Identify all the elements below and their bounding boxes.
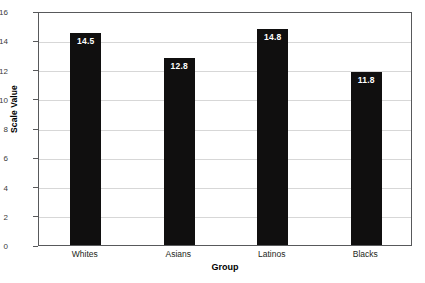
y-axis-tick-label: 8 — [0, 125, 8, 134]
y-axis-tick-mark — [33, 99, 38, 100]
bar: 14.5 — [70, 33, 101, 245]
y-axis-tick-mark — [33, 158, 38, 159]
y-axis-tick-label: 16 — [0, 8, 8, 17]
bar-value-label: 11.8 — [351, 75, 382, 85]
y-axis-tick-label: 6 — [0, 154, 8, 163]
x-axis-tick-label: Whites — [72, 249, 98, 259]
y-axis-tick-mark — [33, 41, 38, 42]
x-axis-tick-label: Latinos — [258, 249, 285, 259]
y-axis-tick-mark — [33, 70, 38, 71]
y-axis-title: Scale Value — [9, 59, 19, 159]
y-axis-tick-label: 0 — [0, 242, 8, 251]
y-axis-tick-label: 4 — [0, 183, 8, 192]
plot-area: 14.512.814.811.8 — [38, 12, 412, 246]
y-axis-tick-label: 12 — [0, 66, 8, 75]
bar-value-label: 14.5 — [70, 36, 101, 46]
bar: 11.8 — [351, 72, 382, 245]
bar-chart-figure: Scale Value 14.512.814.811.8 Group 02468… — [0, 0, 425, 283]
y-axis-tick-label: 10 — [0, 95, 8, 104]
bar: 14.8 — [257, 29, 288, 245]
y-axis-tick-mark — [33, 129, 38, 130]
y-axis-tick-label: 2 — [0, 212, 8, 221]
y-axis-tick-mark — [33, 216, 38, 217]
bar-value-label: 14.8 — [257, 32, 288, 42]
x-axis-tick-label: Asians — [165, 249, 191, 259]
y-axis-tick-mark — [33, 246, 38, 247]
y-axis-tick-mark — [33, 187, 38, 188]
x-axis-title: Group — [38, 262, 412, 272]
bar: 12.8 — [164, 58, 195, 245]
y-axis-tick-mark — [33, 12, 38, 13]
y-axis-tick-label: 14 — [0, 37, 8, 46]
bar-value-label: 12.8 — [164, 61, 195, 71]
x-axis-tick-label: Blacks — [353, 249, 378, 259]
